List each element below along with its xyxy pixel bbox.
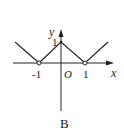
x-tick-neg1: -1 xyxy=(32,68,41,80)
y-tick-1: 1 xyxy=(52,36,58,48)
open-point-pos1 xyxy=(83,61,87,65)
origin-label: O xyxy=(64,68,72,80)
graph-peak xyxy=(40,42,84,62)
peak-point xyxy=(60,41,63,44)
graph-left-branch xyxy=(15,42,38,62)
open-point-neg1 xyxy=(37,61,41,65)
y-axis-arrow-icon xyxy=(59,29,64,37)
graph-right-branch xyxy=(86,42,108,62)
function-graph: y 1 x -1 O 1 B xyxy=(0,0,124,133)
x-axis-label: x xyxy=(110,66,117,80)
x-axis-arrow-icon xyxy=(106,61,114,66)
x-tick-pos1: 1 xyxy=(83,68,89,80)
graph-figure: y 1 x -1 O 1 B xyxy=(0,0,124,133)
figure-caption: B xyxy=(60,116,69,131)
